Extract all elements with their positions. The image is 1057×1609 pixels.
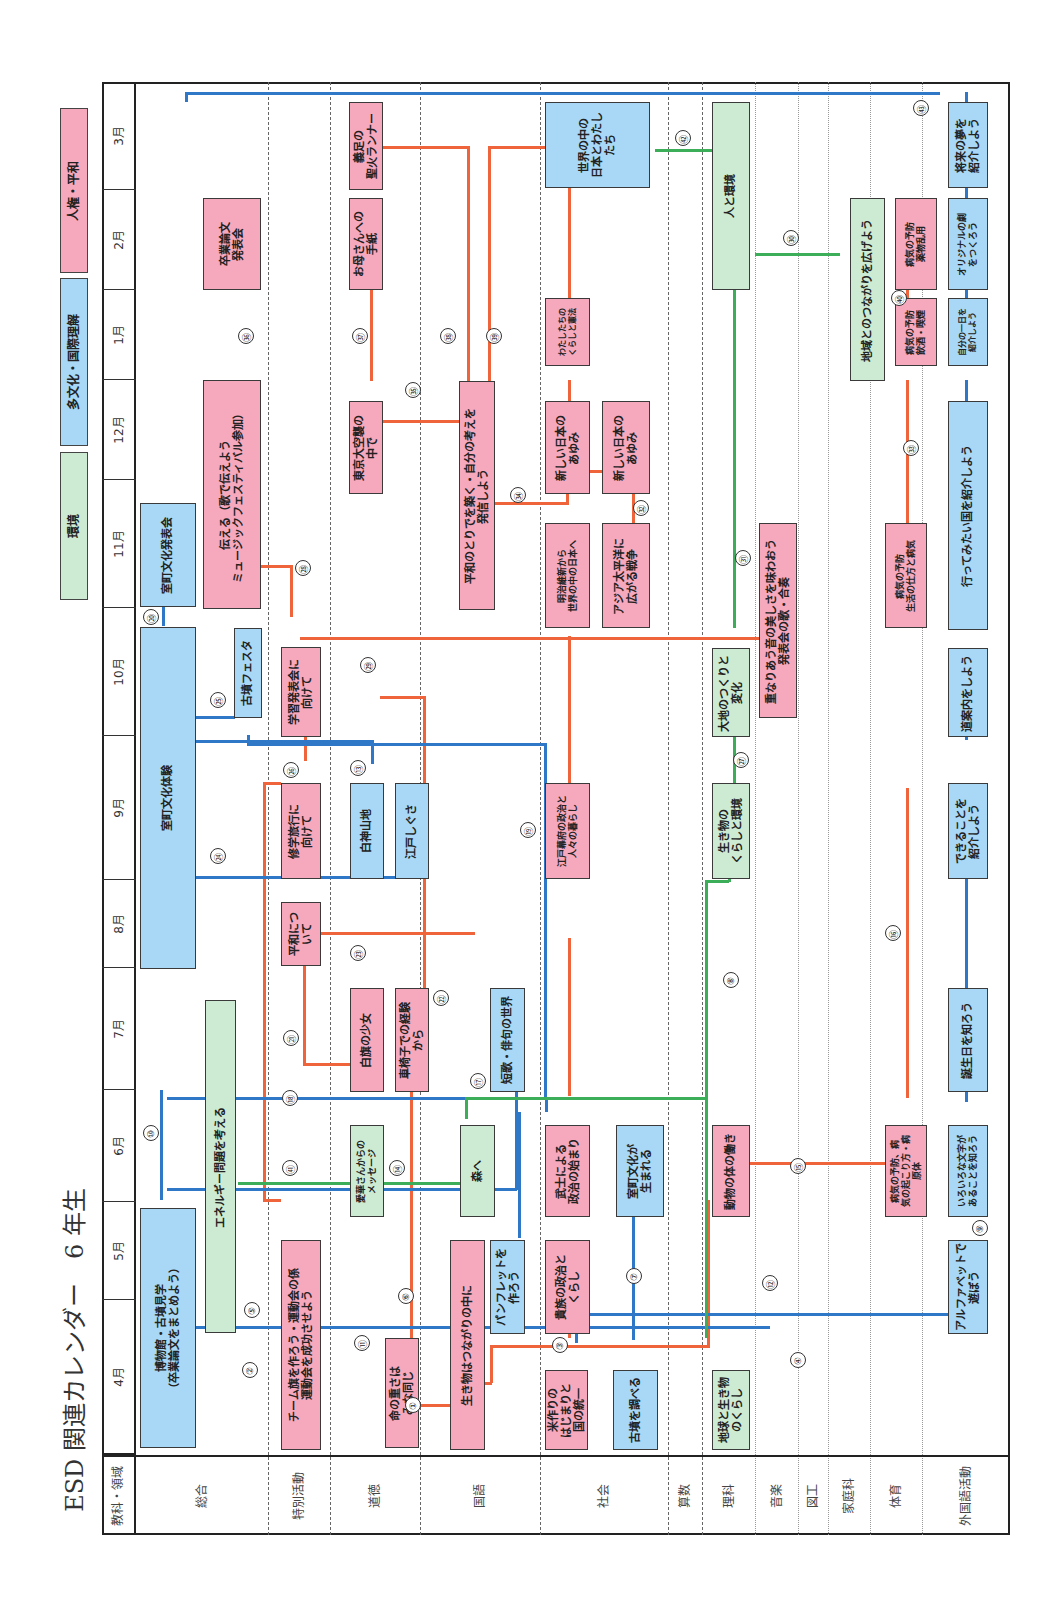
- activity-tokyo-air-raid[interactable]: 東京大空襲の 中で: [349, 401, 383, 494]
- activity-museum-tour[interactable]: 博物館・古墳見学 （卒業論文をまとめよう）: [140, 1208, 196, 1448]
- activity-tanka-haiku[interactable]: 短歌・俳句の世界: [490, 988, 525, 1092]
- activity-label: 江戸しぐさ: [405, 804, 418, 859]
- link-number-19: ⑲: [520, 822, 536, 838]
- activity-disease-lifestyle[interactable]: 病気の予防 生活の仕方と病気: [885, 523, 927, 628]
- activity-label: 重なりあう音の美しさを味わおう 発表会の歌・合奏: [765, 538, 791, 703]
- activity-living-environment[interactable]: 生き物の くらしと環境: [712, 783, 750, 879]
- activity-label: できることを 紹介しよう: [955, 798, 981, 864]
- activity-edo-shigusa[interactable]: 江戸しぐさ: [395, 783, 429, 879]
- activity-prosthetic-runner[interactable]: 義足の 聖火ランナー: [349, 102, 383, 190]
- activity-harmony[interactable]: 重なりあう音の美しさを味わおう 発表会の歌・合奏: [759, 523, 797, 718]
- link-number-43: ㊸: [913, 100, 929, 116]
- activity-thesis-presentation[interactable]: 卒業論文 発表会: [203, 198, 261, 290]
- activity-label: いろいろな文字が あることを知ろう: [957, 1135, 979, 1207]
- activity-original-play[interactable]: オリジナルの劇 をつくろう: [948, 198, 988, 290]
- activity-edo-shogunate[interactable]: 江戸幕府の政治と 人々の暮らし: [545, 783, 590, 879]
- activity-shirakami[interactable]: 白神山地: [350, 783, 384, 879]
- activity-my-day[interactable]: 自分の一日を 紹介しよう: [948, 298, 988, 366]
- activity-label: 修学旅行に 向けて: [288, 804, 314, 859]
- activity-school-trip[interactable]: 修学旅行に 向けて: [281, 783, 321, 879]
- activity-aika-message[interactable]: 愛華さんからの メッセージ: [350, 1125, 384, 1217]
- activity-earth-and-life[interactable]: 地球と生き物 のくらし: [712, 1370, 750, 1450]
- link-number-9: ⑨: [972, 1220, 988, 1236]
- activity-label: 卒業論文 発表会: [219, 222, 245, 266]
- activity-muromachi-presentation[interactable]: 室町文化発表会: [140, 503, 196, 607]
- activity-fortress-of-peace[interactable]: 平和のとりでを築く・自分の考えを 発信しよう: [459, 381, 495, 610]
- activity-energy-issues[interactable]: エネルギー問題を考える: [205, 1000, 236, 1333]
- month-label: 2月: [112, 230, 126, 250]
- row-divider: [828, 82, 829, 1535]
- month-label: 9月: [112, 798, 126, 818]
- activity-label: 平和につ いて: [288, 912, 314, 956]
- activity-label: 新しい日本の あゆみ: [613, 415, 639, 481]
- activity-new-japan-1[interactable]: 新しい日本の あゆみ: [545, 401, 590, 494]
- link-number-22: ㉒: [433, 990, 449, 1006]
- link-line-18: [263, 782, 281, 785]
- activity-label: 将来の夢を 紹介しよう: [955, 118, 981, 173]
- activity-label: 動物の体の働き: [724, 1133, 737, 1210]
- activity-various-scripts[interactable]: いろいろな文字が あることを知ろう: [948, 1125, 988, 1217]
- activity-team-flag[interactable]: チーム旗を作ろう・運動会の係 運動会を成功させよう: [281, 1240, 321, 1450]
- link-number-28: ㉘: [295, 560, 311, 576]
- activity-pacific-war[interactable]: アジア太平洋に 広がる戦争: [602, 523, 650, 628]
- month-apr: 4月: [102, 1300, 136, 1455]
- row-divider: [330, 82, 331, 1535]
- activity-kofun-festa[interactable]: 古墳フェスタ: [234, 628, 262, 718]
- page-title: ESD 関連カレンダー 6 年生: [52, 1140, 92, 1560]
- link-line-41: [238, 1182, 353, 1185]
- activity-muromachi-culture[interactable]: 室町文化が 生まれる: [616, 1125, 664, 1217]
- activity-label: 生き物の くらしと環境: [718, 798, 744, 864]
- activity-constitution[interactable]: わたしたちの くらしと憲法: [545, 298, 590, 366]
- activity-samurai-politics[interactable]: 武士による 政治の始まり: [545, 1125, 590, 1217]
- activity-kofun-research[interactable]: 古墳を調べる: [613, 1370, 658, 1450]
- activity-learning-presentation[interactable]: 学習発表会に 向けて: [281, 647, 321, 737]
- link-line-37: [370, 288, 373, 381]
- activity-pamphlet[interactable]: パンフレットを 作ろう: [490, 1240, 525, 1334]
- activity-disease-alcohol[interactable]: 病気の予防 飲酒・喫煙: [895, 298, 937, 366]
- activity-white-flag-girl[interactable]: 白旗の少女: [350, 988, 384, 1092]
- activity-alphabet[interactable]: アルファベットで 遊ぼう: [948, 1240, 988, 1334]
- activity-muromachi-experience[interactable]: 室町文化体験: [140, 627, 196, 969]
- activity-country-intro[interactable]: 行ってみたい国を紹介しよう: [948, 401, 988, 630]
- activity-directions[interactable]: 道案内をしよう: [948, 648, 988, 737]
- activity-community-ties[interactable]: 地域とのつながりを広げよう: [850, 198, 885, 381]
- activity-label: 地球と生き物 のくらし: [718, 1377, 744, 1443]
- activity-letter-to-mother[interactable]: お母さんへの 手紙: [349, 198, 383, 290]
- activity-japan-in-world[interactable]: 世界の中の 日本とわたし たち: [545, 102, 650, 188]
- activity-meiji-restoration[interactable]: 明治維新から 世界の中の日本へ: [545, 523, 590, 628]
- activity-new-japan-2[interactable]: 新しい日本の あゆみ: [602, 401, 650, 494]
- activity-people-environment[interactable]: 人と環境: [712, 102, 750, 290]
- link-line-28: [260, 565, 292, 568]
- activity-label: 誕生日を知ろう: [961, 1002, 974, 1079]
- activity-aristocrat-politics[interactable]: 貴族の政治と くらし: [545, 1240, 590, 1334]
- activity-label: 平和のとりでを築く・自分の考えを 発信しよう: [464, 408, 490, 584]
- activity-living-connections[interactable]: 生き物はつながりの中に: [450, 1240, 485, 1450]
- link-line-43: [185, 92, 940, 95]
- activity-what-i-can-do[interactable]: できることを 紹介しよう: [948, 783, 988, 879]
- activity-rice-farming[interactable]: 米作りの はじまりと 国の統一: [545, 1370, 588, 1450]
- activity-label: 道案内をしよう: [961, 654, 974, 731]
- activity-disease-pathogen[interactable]: 病気の予防、病 気の起こり方・病 原体: [885, 1125, 927, 1217]
- link-line-29: [300, 637, 770, 640]
- subject-label: 算数: [678, 1484, 692, 1508]
- activity-to-the-forest[interactable]: 森へ: [460, 1125, 495, 1217]
- activity-music-festival[interactable]: 伝える（歌で伝えよう ミュージックフェスティバル参加）: [203, 380, 261, 609]
- subject-kokugo: 国語: [420, 1455, 540, 1535]
- activity-label: 車椅子での経験 から: [399, 1002, 425, 1079]
- legend-label: 環境: [67, 514, 81, 538]
- activity-future-dream[interactable]: 将来の夢を 紹介しよう: [948, 102, 988, 188]
- activity-animal-body[interactable]: 動物の体の働き: [712, 1125, 750, 1217]
- activity-disease-drugs[interactable]: 病気の予防 薬物乱用: [895, 198, 937, 290]
- activity-wheelchair[interactable]: 車椅子での経験 から: [395, 988, 429, 1092]
- activity-about-peace[interactable]: 平和につ いて: [281, 902, 321, 966]
- activity-label: 白神山地: [360, 809, 373, 853]
- activity-earth-formation[interactable]: 大地のつくりと 変化: [712, 648, 750, 737]
- month-dec: 12月: [102, 380, 136, 480]
- month-sep: 9月: [102, 736, 136, 880]
- activity-birthday[interactable]: 誕生日を知ろう: [948, 988, 988, 1092]
- activity-value-of-life[interactable]: 命の重さは みな同じ: [385, 1338, 419, 1448]
- link-line-12: [490, 1345, 710, 1348]
- month-jun: 6月: [102, 1090, 136, 1202]
- month-label: 1月: [112, 325, 126, 345]
- link-number-39: ㊴: [486, 328, 502, 344]
